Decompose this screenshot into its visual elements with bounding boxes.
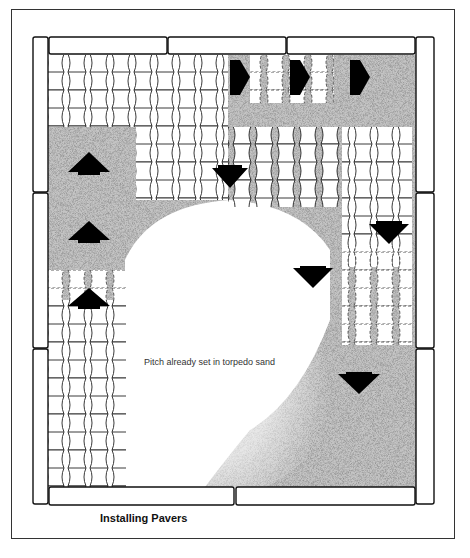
annotation-text: Pitch already set in torpedo sand (144, 357, 275, 367)
figure-caption: Installing Pavers (100, 512, 187, 524)
dashed-pavers-right (342, 245, 412, 345)
paver-diagram (0, 0, 470, 558)
